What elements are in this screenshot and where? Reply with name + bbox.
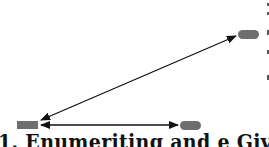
clipped-text-fragments	[266, 0, 269, 110]
node-top-right	[238, 30, 259, 39]
figure-caption: 1. Enumeriting and e Giverv	[0, 130, 269, 147]
edge-left-to-top-right	[41, 36, 236, 120]
node-bottom-right	[180, 121, 201, 130]
relationship-diagram	[0, 0, 269, 147]
node-left	[17, 121, 38, 129]
